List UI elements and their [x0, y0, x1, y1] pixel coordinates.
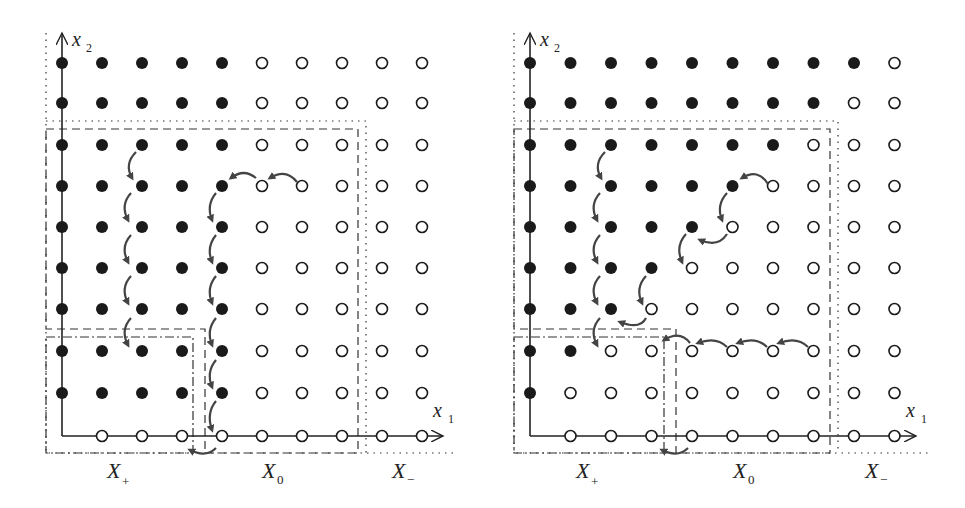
svg-text:2: 2 — [554, 41, 560, 55]
filled-point — [96, 180, 108, 192]
open-point — [337, 58, 348, 69]
open-point — [417, 140, 428, 151]
filled-point — [524, 221, 536, 233]
open-point — [646, 304, 657, 315]
open-point — [417, 222, 428, 233]
filled-point — [646, 97, 658, 109]
filled-point — [136, 221, 148, 233]
filled-point — [605, 221, 617, 233]
open-point — [889, 222, 900, 233]
open-point — [417, 304, 428, 315]
filled-point — [176, 345, 188, 357]
open-point — [337, 98, 348, 109]
open-point — [768, 346, 779, 357]
filled-point — [727, 180, 739, 192]
filled-point — [767, 139, 779, 151]
filled-point — [605, 262, 617, 274]
panel-right: x 2 x 1 X + X 0 X − — [514, 28, 928, 489]
region-label-x-plus: X — [575, 458, 591, 483]
open-point — [808, 263, 819, 274]
filled-point — [565, 345, 577, 357]
filled-point — [686, 57, 698, 69]
open-point — [889, 263, 900, 274]
filled-point — [56, 180, 68, 192]
filled-point — [96, 387, 108, 399]
open-point — [646, 346, 657, 357]
open-point — [257, 222, 268, 233]
open-point — [257, 346, 268, 357]
region-label-x-minus: X — [864, 458, 880, 483]
filled-point — [56, 221, 68, 233]
open-point — [217, 431, 228, 442]
open-point — [808, 346, 819, 357]
filled-point — [176, 97, 188, 109]
open-point — [297, 222, 308, 233]
filled-point — [808, 97, 820, 109]
open-point — [849, 431, 860, 442]
filled-point — [686, 97, 698, 109]
filled-point — [96, 303, 108, 315]
open-point — [417, 58, 428, 69]
panel-left: x 2 x 1 X + X 0 X − — [46, 28, 455, 489]
open-point — [377, 58, 388, 69]
open-point — [849, 263, 860, 274]
open-point — [606, 346, 617, 357]
svg-text:1: 1 — [921, 412, 927, 426]
open-point — [297, 388, 308, 399]
open-point — [297, 58, 308, 69]
filled-point — [646, 262, 658, 274]
filled-point — [216, 262, 228, 274]
open-point — [565, 388, 576, 399]
filled-point — [176, 303, 188, 315]
filled-point — [524, 57, 536, 69]
filled-point — [605, 97, 617, 109]
open-point — [337, 263, 348, 274]
filled-point — [565, 139, 577, 151]
filled-point — [524, 345, 536, 357]
open-point — [257, 431, 268, 442]
region-label-x-zero: X — [261, 458, 277, 483]
open-point — [377, 98, 388, 109]
open-point — [417, 388, 428, 399]
filled-point — [96, 221, 108, 233]
svg-text:1: 1 — [448, 412, 454, 426]
open-point — [257, 263, 268, 274]
open-point — [727, 388, 738, 399]
open-point — [768, 263, 779, 274]
svg-text:x: x — [71, 28, 81, 50]
filled-point — [216, 57, 228, 69]
open-point — [889, 304, 900, 315]
transition-arrows — [125, 152, 297, 454]
open-point — [808, 222, 819, 233]
filled-point — [808, 57, 820, 69]
dotted-inner — [514, 121, 838, 453]
svg-text:x: x — [905, 399, 915, 421]
filled-point — [727, 57, 739, 69]
filled-point — [767, 57, 779, 69]
filled-point — [646, 180, 658, 192]
filled-point — [646, 139, 658, 151]
dashed-boundary — [514, 129, 830, 453]
open-point — [257, 388, 268, 399]
filled-point — [56, 387, 68, 399]
open-point — [417, 181, 428, 192]
filled-point — [216, 345, 228, 357]
filled-point — [96, 262, 108, 274]
filled-point — [565, 97, 577, 109]
filled-point — [176, 221, 188, 233]
open-point — [337, 304, 348, 315]
open-point — [687, 304, 698, 315]
open-point — [727, 346, 738, 357]
open-point — [257, 58, 268, 69]
open-point — [808, 388, 819, 399]
open-point — [849, 98, 860, 109]
filled-point — [686, 221, 698, 233]
open-point — [377, 263, 388, 274]
filled-point — [176, 262, 188, 274]
open-point — [889, 181, 900, 192]
dotted-boundary — [46, 33, 455, 453]
filled-point — [136, 97, 148, 109]
filled-point — [136, 139, 148, 151]
filled-point — [176, 387, 188, 399]
open-point — [768, 388, 779, 399]
